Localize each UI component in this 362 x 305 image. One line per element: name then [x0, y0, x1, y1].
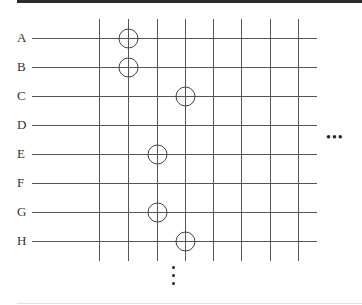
horizontal-lines — [32, 39, 317, 242]
dot — [172, 282, 175, 285]
vertical-lines — [100, 19, 299, 261]
continuation-down-ellipsis — [172, 266, 178, 290]
bottom-rule — [17, 303, 362, 304]
dot — [172, 266, 175, 269]
grid-diagram — [0, 0, 362, 305]
continuation-right-ellipsis: ••• — [326, 133, 344, 143]
dot — [172, 274, 175, 277]
